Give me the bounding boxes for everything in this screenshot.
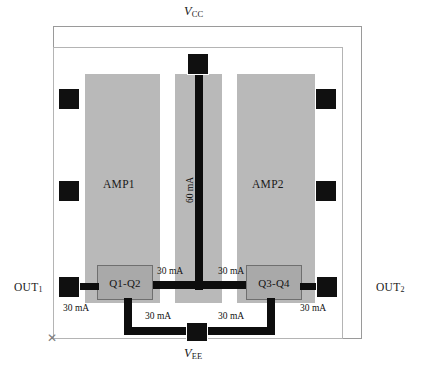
left-output-current-label: 30 mA bbox=[63, 303, 89, 313]
right-bond-pad-upper bbox=[315, 88, 337, 110]
out1-bond-pad bbox=[58, 276, 80, 298]
q3-q4-emitter-down-metal bbox=[267, 298, 275, 330]
vee-subscript: EE bbox=[192, 351, 203, 361]
supply-trunk-current-label: 60 mA bbox=[185, 177, 195, 203]
collector-bus-metal bbox=[142, 281, 256, 289]
right-collector-current-label: 30 mA bbox=[218, 266, 244, 276]
out2-text: OUT bbox=[376, 281, 401, 293]
out1-text: OUT bbox=[14, 281, 39, 293]
vee-symbol: V bbox=[184, 346, 192, 360]
vee-rail-label: VEE bbox=[184, 346, 202, 361]
package-outline-inner-left-edge bbox=[53, 47, 54, 339]
out1-label: OUT1 bbox=[14, 281, 43, 294]
vcc-subscript: CC bbox=[192, 9, 204, 19]
left-bond-pad-upper bbox=[58, 88, 80, 110]
vcc-trunk-metal bbox=[195, 70, 203, 290]
out2-subscript: 2 bbox=[401, 285, 405, 294]
corner-cross-marker: ✕ bbox=[47, 332, 57, 344]
right-bond-pad-lower bbox=[315, 180, 337, 202]
vee-bond-pad bbox=[186, 322, 208, 342]
vcc-rail-label: VCC bbox=[184, 4, 203, 19]
out2-bond-pad bbox=[316, 276, 338, 298]
out1-subscript: 1 bbox=[39, 285, 43, 294]
out2-label: OUT2 bbox=[376, 281, 405, 294]
right-emitter-current-label: 30 mA bbox=[218, 311, 244, 321]
amp2-label: AMP2 bbox=[252, 178, 284, 190]
vcc-bond-pad bbox=[187, 53, 209, 75]
q1-q2-label: Q1-Q2 bbox=[109, 277, 141, 289]
left-collector-current-label: 30 mA bbox=[157, 266, 183, 276]
q1-q2-emitter-down-metal bbox=[124, 298, 132, 330]
left-bond-pad-lower bbox=[58, 180, 80, 202]
right-output-current-label: 30 mA bbox=[300, 303, 326, 313]
left-emitter-current-label: 30 mA bbox=[145, 311, 171, 321]
q3-q4-label: Q3-Q4 bbox=[258, 277, 290, 289]
out1-metal-stub bbox=[78, 283, 99, 290]
amp1-label: AMP1 bbox=[103, 178, 135, 190]
transistor-block-q3-q4: Q3-Q4 bbox=[246, 265, 302, 300]
chip-layout-diagram: AMP1 AMP2 60 mA 30 mA 30 mA Q1-Q2 Q3-Q4 … bbox=[0, 0, 422, 378]
vcc-symbol: V bbox=[184, 4, 192, 18]
transistor-block-q1-q2: Q1-Q2 bbox=[97, 265, 153, 300]
